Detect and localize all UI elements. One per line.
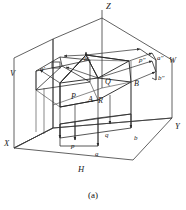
point-label-Q: Q xyxy=(105,78,111,86)
axis-label-z: Z xyxy=(106,2,111,10)
inner-diagonal xyxy=(60,78,98,83)
v-plane-projection xyxy=(36,57,90,90)
plane-label-h: H xyxy=(78,165,84,173)
plane-label-v: V xyxy=(10,69,15,77)
h-proj-outline xyxy=(60,114,131,138)
point-label-q: q xyxy=(105,131,109,139)
back-plane-top-edge xyxy=(53,18,172,60)
point-label-p: p xyxy=(71,142,75,150)
y-axis-line xyxy=(53,118,172,128)
axis-label-x: X xyxy=(4,139,9,147)
ray-v-1 xyxy=(64,55,86,56)
figure-caption: (a) xyxy=(0,190,186,200)
point-label-a-double-prime: a″ xyxy=(157,54,163,62)
projection-box-frame xyxy=(14,10,172,160)
point-label-b-double-prime: b″ xyxy=(158,74,164,82)
cline-2 xyxy=(36,90,60,107)
point-label-A: A xyxy=(88,96,93,104)
point-label-p-double-prime: p″ xyxy=(139,56,145,64)
construction-lines xyxy=(36,60,156,134)
point-label-b: b xyxy=(134,134,138,142)
point-label-b-prime: b′ xyxy=(84,55,89,63)
descriptive-geometry-figure: Z X Y V H W P A R Q B a′ b′ p″ a″ b″ p a… xyxy=(0,0,186,210)
w-proj-edge-2 xyxy=(152,61,156,72)
point-label-P: P xyxy=(71,93,76,101)
axis-label-y: Y xyxy=(175,122,180,130)
w-plane-projection xyxy=(140,49,156,80)
plane-label-w: W xyxy=(169,56,176,64)
h-proj-inner-5 xyxy=(98,114,131,118)
v-plane-outline xyxy=(14,39,53,148)
point-label-B: B xyxy=(134,80,139,88)
projection-diagram xyxy=(0,0,186,190)
point-label-a: a xyxy=(95,150,99,158)
h-proj-inner-6 xyxy=(60,118,98,124)
point-label-a-prime: a′ xyxy=(40,65,45,73)
ray-w-1 xyxy=(86,49,140,55)
point-label-R: R xyxy=(98,97,103,105)
body-right-face-top xyxy=(98,78,131,82)
x-axis-line xyxy=(14,128,53,148)
